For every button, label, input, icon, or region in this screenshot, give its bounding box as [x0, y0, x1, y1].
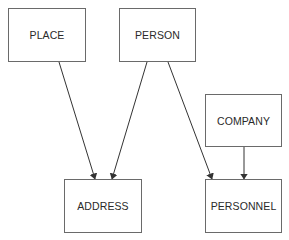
node-label: PLACE	[30, 29, 65, 41]
node-label: ADDRESS	[77, 200, 128, 212]
node-company: COMPANY	[205, 94, 282, 147]
node-place: PLACE	[8, 8, 86, 62]
edge-place-address	[59, 62, 95, 179]
node-label: PERSON	[135, 29, 180, 41]
node-label: COMPANY	[217, 115, 270, 127]
node-personnel: PERSONNEL	[205, 179, 282, 233]
node-label: PERSONNEL	[211, 200, 277, 212]
edge-person-address	[112, 62, 147, 179]
node-address: ADDRESS	[64, 179, 142, 233]
node-person: PERSON	[119, 8, 196, 62]
